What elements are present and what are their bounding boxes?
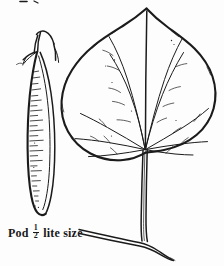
illustration-plate: Pod 12 lite size <box>0 0 224 266</box>
caption-fraction: 12 <box>33 225 39 240</box>
stray-marks <box>20 1 38 3</box>
twig <box>79 230 175 261</box>
pod-hatching <box>29 71 43 208</box>
leaf-figure <box>61 9 215 242</box>
pod-outline <box>28 52 55 215</box>
leaf-petiole <box>141 151 147 242</box>
leaf-margin-undulations-right <box>148 31 215 153</box>
caption-prefix: Pod <box>8 226 29 240</box>
pod-figure <box>17 31 59 215</box>
caption-suffix: lite size <box>43 226 82 240</box>
fraction-denominator: 2 <box>33 233 39 240</box>
caption: Pod 12 lite size <box>8 225 83 240</box>
pod-stalk <box>34 31 54 52</box>
leaf-midrib <box>145 11 146 150</box>
